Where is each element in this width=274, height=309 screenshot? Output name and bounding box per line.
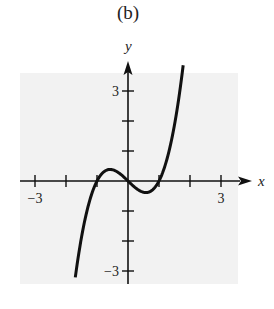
y-axis-label: y xyxy=(123,38,132,54)
x-axis-arrow-icon xyxy=(238,177,252,186)
y-tick-label: 3 xyxy=(112,84,119,99)
x-tick-label: 3 xyxy=(218,191,225,206)
chart: −333−3xy xyxy=(0,0,274,309)
y-tick-label: −3 xyxy=(104,264,119,279)
x-axis-label: x xyxy=(257,173,265,189)
plot-background xyxy=(20,73,238,284)
x-tick-label: −3 xyxy=(28,191,43,206)
